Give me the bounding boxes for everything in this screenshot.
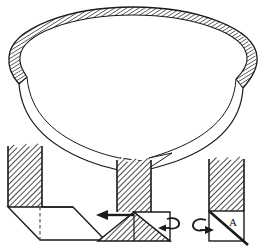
step3-strip-fill [209,156,244,211]
technical-figure: A [0,0,265,248]
step2-strip-fill [117,157,151,212]
figure-canvas: A [0,0,265,248]
step1-strip-fill [8,143,42,207]
region-a-label: A [229,216,237,228]
